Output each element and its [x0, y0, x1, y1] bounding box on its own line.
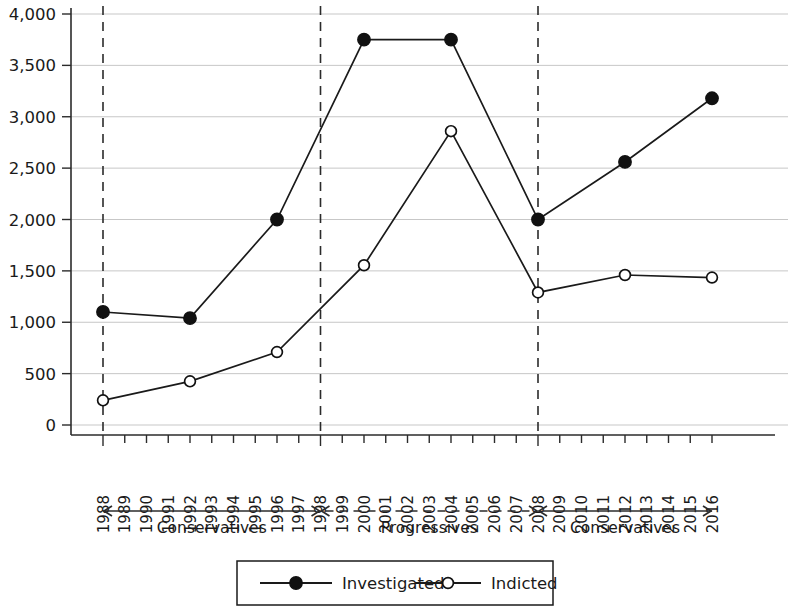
y-axis-tick-label: 4,000 — [9, 5, 56, 24]
line-chart-canvas: 05001,0001,5002,0002,5003,0003,5004,000 … — [0, 0, 790, 616]
x-axis-tick-label: 2000 — [356, 495, 374, 533]
data-point-indicted-2008 — [533, 287, 544, 298]
y-axis-tick-label: 2,000 — [9, 211, 56, 230]
x-axis-tick-label: 1999 — [334, 495, 352, 533]
y-axis-ticks-group — [62, 14, 71, 425]
legend-sample-marker-investigated — [290, 577, 302, 589]
data-point-investigated-2000 — [358, 33, 370, 45]
data-point-investigated-1992 — [184, 312, 196, 324]
data-point-investigated-2016 — [706, 92, 718, 104]
data-point-indicted-1996 — [272, 347, 283, 358]
y-axis-tick-label: 1,500 — [9, 262, 56, 281]
series-line-indicted — [103, 131, 712, 400]
series-lines-group — [103, 40, 712, 401]
y-axis-tick-label: 3,000 — [9, 108, 56, 127]
data-point-investigated-2008 — [532, 213, 544, 225]
legend-sample-marker-indicted — [443, 578, 454, 589]
x-axis-tick-label: 2006 — [486, 495, 504, 533]
legend-label-indicted: Indicted — [491, 574, 558, 593]
x-axis-ticks-group — [103, 435, 712, 446]
data-point-indicted-1988 — [98, 395, 109, 406]
data-point-indicted-2004 — [446, 126, 457, 137]
data-point-indicted-2000 — [359, 260, 370, 271]
legend-group: InvestigatedIndicted — [237, 561, 558, 605]
y-axis-tick-label: 500 — [25, 365, 57, 384]
y-axis-tick-label: 3,500 — [9, 56, 56, 75]
period-divider-lines-group — [103, 6, 538, 435]
x-axis-tick-label: 1989 — [116, 495, 134, 533]
period-label: Conservatives — [570, 519, 680, 537]
data-point-investigated-2004 — [445, 33, 457, 45]
chart-figure: 05001,0001,5002,0002,5003,0003,5004,000 … — [0, 0, 790, 616]
x-axis-tick-label: 2007 — [508, 495, 526, 533]
y-axis-labels-group: 05001,0001,5002,0002,5003,0003,5004,000 — [9, 5, 56, 435]
period-label: Progressives — [381, 519, 478, 537]
x-axis-tick-label: 1997 — [290, 495, 308, 533]
y-axis-tick-label: 1,000 — [9, 313, 56, 332]
period-label: Conservatives — [157, 519, 267, 537]
axes-group — [71, 8, 775, 435]
x-axis-tick-label: 2015 — [682, 495, 700, 533]
data-point-investigated-1996 — [271, 213, 283, 225]
x-axis-tick-label: 1996 — [269, 495, 287, 533]
data-point-indicted-2016 — [707, 272, 718, 283]
gridlines-group — [71, 14, 788, 425]
x-axis-tick-label: 1990 — [138, 495, 156, 533]
data-point-investigated-2012 — [619, 156, 631, 168]
x-axis-tick-label: 2009 — [551, 495, 569, 533]
data-point-indicted-2012 — [620, 270, 631, 281]
y-axis-tick-label: 0 — [46, 416, 57, 435]
data-point-investigated-1988 — [97, 306, 109, 318]
y-axis-tick-label: 2,500 — [9, 159, 56, 178]
data-point-indicted-1992 — [185, 376, 196, 387]
